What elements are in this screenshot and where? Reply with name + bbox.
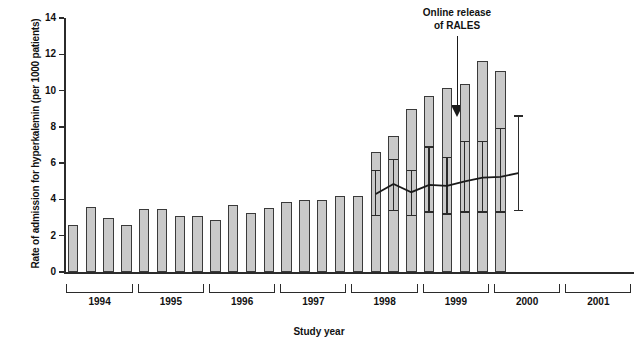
y-tick-label-8: 8 xyxy=(34,122,56,132)
year-bracket-1999 xyxy=(423,284,489,293)
plot-area: 02468101214 xyxy=(64,18,634,272)
y-tick-label-12: 12 xyxy=(34,49,56,59)
y-tick-label-4: 4 xyxy=(34,194,56,204)
year-label-2000: 2000 xyxy=(494,296,560,307)
year-bracket-1994 xyxy=(66,284,132,293)
year-label-1996: 1996 xyxy=(209,296,275,307)
year-bracket-1996 xyxy=(209,284,275,293)
y-tick-label-2: 2 xyxy=(34,231,56,241)
year-bracket-2000 xyxy=(494,284,560,293)
year-label-1995: 1995 xyxy=(138,296,204,307)
year-bracket-1995 xyxy=(138,284,204,293)
x-axis-line xyxy=(64,272,634,274)
year-bracket-1998 xyxy=(351,284,417,293)
year-label-1999: 1999 xyxy=(423,296,489,307)
year-label-2001: 2001 xyxy=(565,296,631,307)
y-tick-label-10: 10 xyxy=(34,86,56,96)
trend-line xyxy=(64,18,634,272)
y-tick-label-14: 14 xyxy=(34,13,56,23)
chart-figure: Rate of admission for hyperkalemin (per … xyxy=(0,0,638,354)
y-tick-label-6: 6 xyxy=(34,158,56,168)
y-tick-label-0: 0 xyxy=(34,267,56,277)
x-axis-year-brackets: 19941995199619971998199920002001 xyxy=(64,284,634,298)
year-label-1994: 1994 xyxy=(66,296,132,307)
year-label-1997: 1997 xyxy=(280,296,346,307)
year-bracket-1997 xyxy=(280,284,346,293)
trend-polyline xyxy=(376,173,519,194)
x-axis-title: Study year xyxy=(0,326,638,337)
year-bracket-2001 xyxy=(565,284,631,293)
year-label-1998: 1998 xyxy=(351,296,417,307)
